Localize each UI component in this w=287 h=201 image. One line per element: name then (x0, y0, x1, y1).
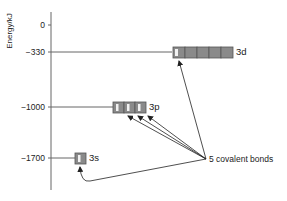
electron-3p-2 (127, 104, 130, 111)
covalent-bonds-annotation: 5 covalent bonds (209, 154, 273, 164)
tick-label-1000: −1000 (5, 102, 45, 112)
level-label-3p: 3p (149, 102, 160, 112)
level-label-3s: 3s (89, 153, 99, 163)
electron-3d-1 (175, 49, 178, 56)
electron-3p-3 (138, 104, 141, 111)
tick-label-0: 0 (5, 20, 45, 30)
orbital-boxes-3s (75, 153, 86, 164)
level-label-3d: 3d (236, 47, 247, 57)
bond-arrows (80, 61, 206, 181)
electron-3p-1 (116, 104, 119, 111)
orbital-boxes-3p (113, 102, 146, 113)
electron-3s-1 (78, 155, 81, 162)
arrow-to-3p-1 (128, 116, 206, 159)
orbital-boxes-3d (173, 47, 233, 58)
tick-label-1700: −1700 (5, 153, 45, 163)
arrow-to-3p-3 (148, 116, 206, 159)
energy-level-diagram (0, 0, 287, 201)
tick-label-330: −330 (5, 47, 45, 57)
